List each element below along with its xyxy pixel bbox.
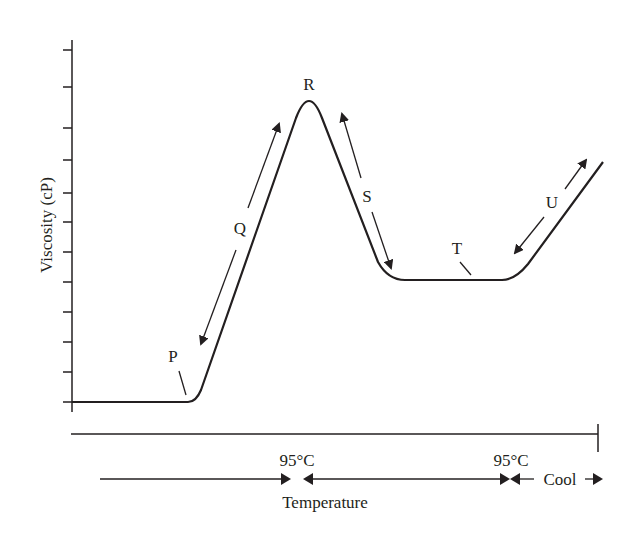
arrow-s-down — [372, 212, 391, 268]
viscosity-curve — [72, 101, 603, 402]
temp-marker-2: 95°C — [493, 451, 528, 470]
arrow-q-down — [201, 250, 236, 344]
time-axis — [71, 424, 598, 452]
label-q: Q — [234, 219, 246, 238]
temperature-arrows — [100, 473, 603, 485]
viscosity-diagram: Viscosity (cP) P Q R S T U 95°C 95°C Coo… — [0, 0, 639, 538]
label-r: R — [303, 75, 315, 94]
label-p: P — [168, 347, 177, 366]
y-axis-ticks — [63, 50, 72, 402]
label-t: T — [452, 239, 463, 258]
x-axis-label: Temperature — [282, 493, 368, 512]
arrow-s-up — [342, 114, 361, 178]
arrow-u-up — [565, 160, 586, 189]
arrow-q-up — [248, 124, 279, 208]
label-s: S — [362, 187, 371, 206]
y-axis-label: Viscosity (cP) — [37, 177, 56, 273]
leader-t — [460, 262, 471, 275]
temp-marker-1: 95°C — [279, 451, 314, 470]
leader-p — [179, 371, 186, 395]
cool-label: Cool — [543, 470, 576, 489]
y-axis — [63, 40, 72, 412]
label-u: U — [546, 193, 558, 212]
